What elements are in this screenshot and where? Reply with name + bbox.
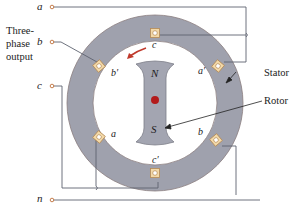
slot-c-icon xyxy=(151,29,160,38)
group-label-line-3: output xyxy=(6,50,34,63)
stator-callout-label: Stator xyxy=(264,68,289,79)
terminal-n-icon xyxy=(50,198,54,202)
generator-diagram xyxy=(0,0,297,210)
rotor-shaft-icon xyxy=(151,96,159,104)
terminal-c-label: c xyxy=(37,80,42,91)
rotor-north-label: N xyxy=(151,68,158,79)
slot-c-label: c xyxy=(152,40,156,50)
slot-c-prime-label: c′ xyxy=(152,155,159,165)
slot-b-prime-label: b′ xyxy=(111,68,118,78)
terminal-b-label: b xyxy=(37,36,43,47)
rotor-callout-label: Rotor xyxy=(264,96,288,107)
terminal-b-icon xyxy=(50,40,54,44)
rotor-south-label: S xyxy=(151,124,157,135)
slot-c-prime-icon xyxy=(151,169,160,178)
terminal-c-icon xyxy=(50,84,54,88)
terminal-a-label: a xyxy=(37,1,43,12)
terminal-n-label: n xyxy=(37,193,43,204)
slot-b-label: b xyxy=(198,127,203,137)
terminals xyxy=(50,5,54,202)
slot-a-label: a xyxy=(111,129,116,139)
three-phase-output-label: Three- phase output xyxy=(6,24,34,63)
group-label-line-1: Three- xyxy=(6,24,34,37)
slot-a-prime-label: a′ xyxy=(198,66,205,76)
terminal-a-icon xyxy=(50,5,54,9)
group-label-line-2: phase xyxy=(6,37,34,50)
rotation-arrow-icon xyxy=(127,48,146,59)
